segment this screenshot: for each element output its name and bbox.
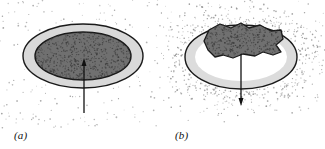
figure-panel-b: (b) bbox=[163, 0, 325, 149]
panel-a-graphic bbox=[0, 0, 162, 149]
panel-label-a: (a) bbox=[14, 130, 27, 141]
figure-panel-a: (a) bbox=[0, 0, 162, 149]
figure-root: (a) bbox=[0, 0, 325, 149]
panel-label-b: (b) bbox=[175, 130, 188, 141]
panel-b-graphic bbox=[163, 0, 325, 149]
